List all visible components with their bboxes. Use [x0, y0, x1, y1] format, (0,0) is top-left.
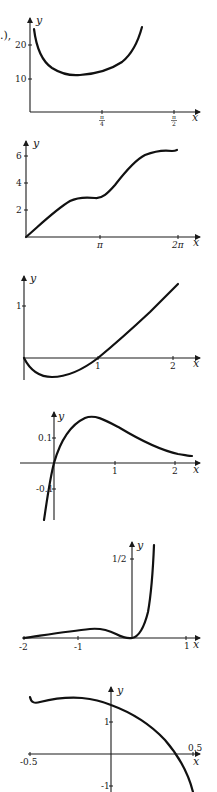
x-tick-2: 2	[172, 466, 178, 476]
x-tick-neg-1: -1	[74, 642, 83, 652]
x-tick-1: 1	[184, 641, 190, 651]
y-axis-label: y	[136, 539, 144, 552]
x-tick-pi: π	[96, 240, 104, 250]
x-tick-neg-0-5: -0.5	[20, 757, 38, 767]
caption-fragment: .),	[0, 29, 11, 42]
y-axis-label: y	[29, 272, 37, 285]
x-axis-label: x	[193, 638, 200, 651]
y-tick-6: 6	[16, 151, 22, 161]
y-axis-label: y	[32, 137, 40, 150]
y-tick-1: 1	[16, 301, 22, 311]
svg-text:π: π	[172, 113, 176, 120]
y-axis-label: y	[35, 14, 43, 27]
svg-text:4: 4	[100, 120, 104, 127]
y-tick-0-1: 0.1	[38, 433, 52, 443]
svg-text:π: π	[100, 113, 104, 120]
y-tick-2: 2	[16, 205, 22, 215]
y-tick-10: 10	[15, 74, 27, 84]
x-tick-pi-over-2: π 2	[171, 113, 177, 127]
x-tick-2pi: 2π	[171, 240, 185, 250]
x-tick-1: 1	[95, 361, 101, 371]
y-tick-half: 1/2	[112, 554, 126, 564]
chart-4: y x 0.1 -0.1 1 2	[20, 410, 200, 520]
x-tick-pi-over-4: π 4	[99, 113, 105, 127]
curve-4	[44, 417, 192, 520]
x-axis-label: x	[193, 357, 200, 370]
x-tick-neg-2: -2	[19, 642, 28, 652]
svg-text:2: 2	[172, 120, 176, 127]
x-axis-label: x	[192, 111, 199, 124]
chart-1: y x 20 10 π 4 π 2	[15, 14, 200, 127]
chart-3: y x 1 1 2	[16, 272, 200, 380]
x-tick-2: 2	[170, 361, 176, 371]
curve-1	[34, 27, 142, 75]
curve-3	[24, 284, 178, 377]
x-axis-label: x	[193, 463, 200, 476]
y-tick-neg-0-1: -0.1	[36, 484, 53, 494]
y-axis-label: y	[116, 684, 124, 697]
y-tick-1: 1	[104, 717, 110, 727]
x-tick-0-5: 0.5	[188, 743, 203, 753]
x-tick-1: 1	[112, 466, 118, 476]
chart-5: y x 1/2 -2 -1 1	[19, 539, 200, 652]
y-tick-4: 4	[16, 178, 22, 188]
y-tick-20: 20	[15, 40, 27, 50]
chart-2: y x 6 4 2 π 2π	[16, 137, 200, 250]
figure-canvas: .), y x 20 10 π 4 π 2 y x 6 4	[0, 0, 217, 792]
curve-2	[26, 150, 177, 237]
curve-5	[24, 545, 154, 638]
x-axis-label: x	[193, 755, 200, 768]
x-axis-label: x	[193, 236, 200, 249]
y-tick-neg-1: -1	[101, 781, 110, 791]
chart-6: y x 1 -1 -0.5 0.5	[20, 684, 203, 792]
y-axis-label: y	[57, 410, 65, 423]
